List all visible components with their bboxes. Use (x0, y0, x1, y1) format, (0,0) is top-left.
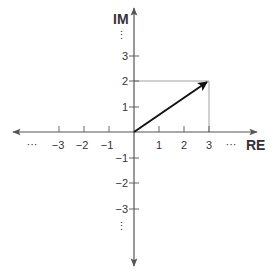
x-tick-label: −2 (76, 139, 89, 151)
y-tick-label: −2 (115, 177, 128, 189)
complex-plane-diagram: ··· −3 −2 −1 1 2 3 ··· ⋮ 3 2 1 −1 −2 −3 … (0, 0, 275, 271)
y-ellipsis-bottom: ⋮ (116, 220, 127, 232)
y-tick-label: 2 (122, 75, 128, 87)
complex-vector-arrow (134, 82, 207, 132)
x-ellipsis-right: ··· (226, 138, 237, 150)
x-ellipsis-left: ··· (27, 138, 38, 150)
x-tick-label: −3 (52, 139, 65, 151)
x-tick-label: 1 (156, 139, 162, 151)
x-tick-label: −1 (101, 139, 114, 151)
x-tick-label: 3 (206, 139, 212, 151)
y-tick-label: 3 (122, 50, 128, 62)
y-tick-label: −1 (115, 152, 128, 164)
imaginary-axis-label: IM (113, 11, 129, 27)
real-axis-label: RE (246, 137, 265, 153)
x-tick-label: 2 (181, 139, 187, 151)
y-tick-label: −3 (115, 203, 128, 215)
y-ellipsis-top: ⋮ (116, 29, 127, 41)
y-tick-label: 1 (122, 101, 128, 113)
